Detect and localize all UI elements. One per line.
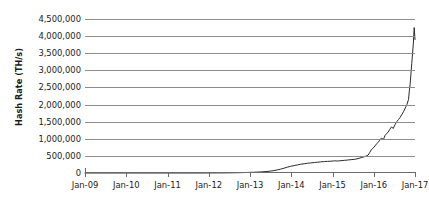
x-tick-label: Jan-16 [360,180,387,190]
gridline [85,87,415,88]
y-tick-label: 1,500,000 [18,117,81,127]
x-tick-label: Jan-09 [72,180,99,190]
y-tick-label: 3,500,000 [18,48,81,58]
plot-area [85,19,415,173]
x-tick [415,173,416,177]
x-tick [168,173,169,177]
y-tick-label: 2,000,000 [18,100,81,110]
x-tick-label: Jan-10 [113,180,140,190]
gridline [85,53,415,54]
x-tick-label: Jan-11 [154,180,181,190]
x-tick [250,173,251,177]
x-tick-label: Jan-12 [195,180,222,190]
x-tick [85,173,86,177]
x-tick-label: Jan-15 [319,180,346,190]
x-tick [209,173,210,177]
y-tick-label: 3,000,000 [18,65,81,75]
x-tick-label: Jan-14 [278,180,305,190]
gridline [85,122,415,123]
gridline [85,105,415,106]
y-tick-label: 0 [18,168,81,178]
y-tick-label: 4,500,000 [18,14,81,24]
x-tick-label: Jan-17 [402,180,429,190]
gridline [85,36,415,37]
y-tick-label: 1,000,000 [18,134,81,144]
y-tick-label: 4,000,000 [18,31,81,41]
y-tick-label: 2,500,000 [18,82,81,92]
y-tick-label: 500,000 [18,151,81,161]
gridline [85,156,415,157]
gridline [85,70,415,71]
x-tick [374,173,375,177]
gridline [85,139,415,140]
x-tick [333,173,334,177]
x-tick [126,173,127,177]
series-line [85,19,415,173]
x-tick-label: Jan-13 [237,180,264,190]
gridline [85,19,415,20]
y-axis-tick-labels: 4,500,0004,000,0003,500,0003,000,0002,50… [18,0,81,209]
hash-rate-chart: Hash Rate (TH/s) 4,500,0004,000,0003,500… [0,0,429,209]
x-tick [291,173,292,177]
